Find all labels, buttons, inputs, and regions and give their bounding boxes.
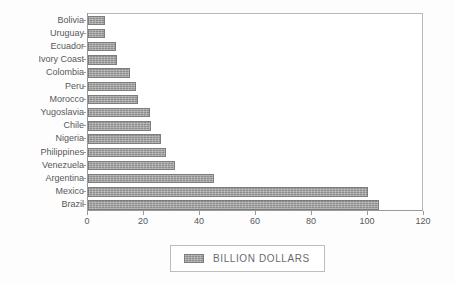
category-label: Peru — [2, 81, 84, 91]
x-axis-tick-label: 100 — [352, 216, 382, 227]
bar — [88, 134, 161, 144]
x-axis-tick — [87, 211, 88, 215]
category-tick — [82, 86, 86, 87]
category-label: Morocco — [2, 94, 84, 104]
bar-row — [88, 120, 424, 133]
bar — [88, 55, 117, 65]
x-axis-tick-label: 80 — [296, 216, 326, 227]
x-axis-tick-label: 60 — [240, 216, 270, 227]
category-tick — [82, 20, 86, 21]
bar — [88, 200, 379, 210]
category-label: Bolivia — [2, 15, 84, 25]
bar — [88, 108, 150, 118]
category-tick — [82, 33, 86, 34]
category-tick — [82, 178, 86, 179]
category-axis-labels: BoliviaUruguayEcuadorIvory CoastColombia… — [0, 13, 84, 211]
x-axis-tick-label: 0 — [72, 216, 102, 227]
bar — [88, 68, 130, 78]
category-tick — [82, 152, 86, 153]
bar — [88, 16, 105, 26]
category-tick — [82, 204, 86, 205]
bar-row — [88, 133, 424, 146]
bar-row — [88, 172, 424, 185]
category-tick — [82, 138, 86, 139]
bar — [88, 174, 214, 184]
bar-row — [88, 146, 424, 159]
category-tick — [82, 72, 86, 73]
x-axis-tick — [423, 211, 424, 215]
bar — [88, 29, 105, 39]
x-axis-tick-label: 120 — [408, 216, 438, 227]
legend-swatch-icon — [184, 254, 204, 263]
chart-legend: BILLION DOLLARS — [170, 245, 325, 272]
category-tick — [82, 125, 86, 126]
x-axis-tick — [199, 211, 200, 215]
x-axis-tick — [255, 211, 256, 215]
x-axis-tick-label: 40 — [184, 216, 214, 227]
bar-row — [88, 186, 424, 199]
category-label: Chile — [2, 120, 84, 130]
category-label: Yugoslavia — [2, 107, 84, 117]
category-label: Ecuador — [2, 41, 84, 51]
legend-label: BILLION DOLLARS — [213, 253, 310, 264]
category-label: Colombia — [2, 67, 84, 77]
bar-row — [88, 159, 424, 172]
x-axis-tick — [143, 211, 144, 215]
bar — [88, 121, 151, 131]
bar-row — [88, 54, 424, 67]
category-label: Brazil — [2, 199, 84, 209]
x-axis-tick-label: 20 — [128, 216, 158, 227]
category-label: Nigeria — [2, 133, 84, 143]
category-label: Philippines — [2, 147, 84, 157]
bar — [88, 95, 138, 105]
bar-chart: BoliviaUruguayEcuadorIvory CoastColombia… — [0, 0, 455, 285]
category-tick — [82, 112, 86, 113]
category-label: Mexico — [2, 186, 84, 196]
bar-row — [88, 14, 424, 27]
category-tick — [82, 59, 86, 60]
bar — [88, 187, 368, 197]
category-tick — [82, 46, 86, 47]
bar-row — [88, 67, 424, 80]
category-label: Venezuela — [2, 160, 84, 170]
bar-row — [88, 106, 424, 119]
category-label: Uruguay — [2, 28, 84, 38]
category-tick — [82, 99, 86, 100]
category-label: Argentina — [2, 173, 84, 183]
bar — [88, 148, 166, 158]
bar — [88, 42, 116, 52]
bar — [88, 161, 175, 171]
bar-row — [88, 27, 424, 40]
bar-row — [88, 80, 424, 93]
category-tick — [82, 165, 86, 166]
bar — [88, 82, 136, 92]
category-tick — [82, 191, 86, 192]
bar-row — [88, 93, 424, 106]
y-axis-line — [87, 13, 88, 211]
x-axis-tick — [311, 211, 312, 215]
bar-row — [88, 40, 424, 53]
x-axis-tick — [367, 211, 368, 215]
plot-area — [87, 13, 423, 211]
category-label: Ivory Coast — [2, 54, 84, 64]
